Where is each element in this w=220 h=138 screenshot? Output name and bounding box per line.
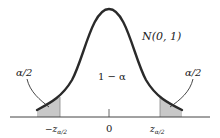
distribution-label: N(0, 1)	[141, 30, 181, 43]
normal-distribution-diagram: N(0, 1) 1 − α α/2 α/2 −zα/2 0 zα/2	[0, 0, 220, 138]
left-tail-pointer	[27, 79, 49, 107]
bell-curve	[37, 9, 182, 110]
center-area-label: 1 − α	[98, 71, 126, 82]
left-tail-label: α/2	[16, 67, 32, 78]
center-value-label: 0	[106, 123, 112, 134]
right-tail-label: α/2	[185, 67, 201, 78]
right-critical-value-label: zα/2	[149, 124, 165, 135]
left-critical-value-label: −zα/2	[45, 124, 67, 135]
right-tail-pointer	[170, 79, 193, 107]
